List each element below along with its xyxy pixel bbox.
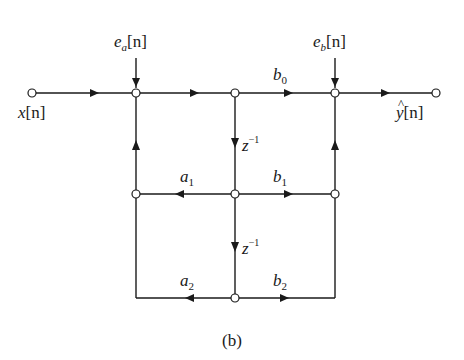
arrow-icon bbox=[90, 89, 99, 97]
node-fb1 bbox=[132, 190, 140, 198]
arrow-icon bbox=[231, 242, 239, 252]
label-b0: b0 bbox=[273, 65, 288, 86]
arrow-icon bbox=[190, 89, 199, 97]
node-output bbox=[432, 89, 440, 97]
label-output: y[n] bbox=[394, 103, 423, 122]
node-w0 bbox=[231, 89, 239, 97]
label-noise-a: ea[n] bbox=[114, 32, 147, 53]
arrow-icon bbox=[231, 138, 239, 148]
node-input bbox=[28, 89, 36, 97]
arrow-icon bbox=[381, 89, 390, 97]
node-w2 bbox=[231, 294, 239, 302]
figure-caption: (b) bbox=[222, 331, 242, 350]
arrow-icon bbox=[185, 294, 194, 302]
label-noise-b: eb[n] bbox=[313, 32, 346, 53]
label-delay-2: z−1 bbox=[241, 237, 259, 258]
label-a1: a1 bbox=[180, 167, 194, 188]
arrow-icon bbox=[284, 190, 293, 198]
node-sum-b bbox=[331, 89, 339, 97]
arrow-icon bbox=[132, 140, 140, 150]
node-w1 bbox=[231, 190, 239, 198]
arrow-icon bbox=[175, 190, 184, 198]
arrow-icon bbox=[132, 78, 140, 87]
signal-flow-graph: x[n] ^ y[n] ea[n] eb[n] b0 z−1 a1 b1 z−1… bbox=[0, 0, 464, 360]
arrow-icon bbox=[284, 89, 293, 97]
label-b1: b1 bbox=[273, 167, 287, 188]
arrow-icon bbox=[331, 140, 339, 150]
arrow-icon bbox=[280, 294, 289, 302]
label-a2: a2 bbox=[180, 271, 194, 292]
arrow-icon bbox=[331, 78, 339, 87]
label-b2: b2 bbox=[273, 271, 287, 292]
node-ff1 bbox=[331, 190, 339, 198]
node-sum-a bbox=[132, 89, 140, 97]
label-input: x[n] bbox=[17, 103, 45, 122]
label-delay-1: z−1 bbox=[241, 134, 259, 155]
